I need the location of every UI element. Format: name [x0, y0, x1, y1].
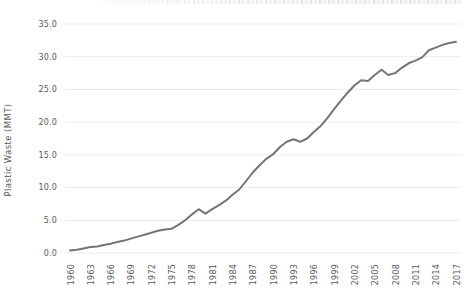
- x-axis-tick-label: 1978: [188, 264, 197, 285]
- x-axis-tick-label: 1996: [310, 264, 319, 285]
- y-axis-tick-label: 5.0: [44, 216, 57, 225]
- y-axis-tick-label: 35.0: [38, 20, 57, 29]
- x-axis-tick-label: 2005: [371, 264, 380, 285]
- x-axis-tick-label: 2002: [351, 264, 360, 285]
- x-axis-tick-label: 1990: [270, 264, 279, 285]
- y-axis-tick-label: 30.0: [38, 53, 57, 62]
- x-axis-tick-label: 1960: [67, 264, 76, 285]
- y-axis-tick-label: 20.0: [38, 118, 57, 127]
- x-axis-tick-label: 2014: [432, 264, 441, 285]
- x-axis-tick-label: 1984: [229, 264, 238, 285]
- x-axis-tick-label: 2011: [412, 264, 421, 285]
- y-axis-tick-label: 10.0: [38, 183, 57, 192]
- data-line-plastic-waste: [70, 42, 456, 251]
- x-axis-tick-label: 2008: [392, 264, 401, 285]
- chart-page: 0.05.010.015.020.025.030.035.01960196319…: [0, 0, 466, 303]
- y-axis-title: Plastic Waste (MMT): [3, 103, 13, 196]
- x-axis-tick-label: 1987: [249, 264, 258, 285]
- x-axis-tick-label: 1999: [331, 264, 340, 285]
- y-axis-tick-label: 25.0: [38, 85, 57, 94]
- cropped-content-artifact: [103, 0, 463, 4]
- x-axis-tick-label: 1972: [148, 264, 157, 285]
- x-axis-tick-label: 2017: [453, 264, 462, 285]
- y-axis-tick-label: 15.0: [38, 151, 57, 160]
- x-axis-tick-label: 1975: [168, 264, 177, 285]
- y-axis-tick-label: 0.0: [44, 249, 57, 258]
- x-axis-tick-label: 1966: [107, 264, 116, 285]
- x-axis-tick-label: 1963: [87, 264, 96, 285]
- plastic-waste-line-chart: 0.05.010.015.020.025.030.035.01960196319…: [0, 0, 466, 303]
- x-axis-tick-label: 1993: [290, 264, 299, 285]
- x-axis-tick-label: 1969: [127, 264, 136, 285]
- x-axis-tick-label: 1981: [209, 264, 218, 285]
